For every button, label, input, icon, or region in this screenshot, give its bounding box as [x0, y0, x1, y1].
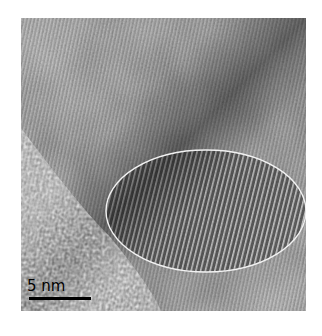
scale-bar [29, 297, 91, 300]
tem-micrograph [21, 18, 306, 311]
scale-bar-label: 5 nm [27, 277, 65, 295]
